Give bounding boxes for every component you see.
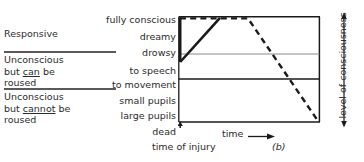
category-line-3: roused xyxy=(4,114,70,126)
series-recovery-solid xyxy=(180,18,220,62)
category-line-1: Unconscious xyxy=(4,91,70,103)
time-of-injury-caption: time of injury xyxy=(152,141,216,152)
category-line-1: Unconscious xyxy=(4,54,64,66)
x-axis-title: time xyxy=(222,128,243,139)
series-deterioration-dashed xyxy=(180,18,318,121)
y-label-fully-conscious: fully conscious xyxy=(106,15,176,25)
category-line-2-suffix: be xyxy=(40,66,55,77)
y-axis-level-labels: fully conscious dreamy drowsy to speech … xyxy=(86,10,176,128)
category-line-2-prefix: but xyxy=(4,66,23,77)
y-label-to-movement: to movement xyxy=(112,80,176,90)
category-line-2-suffix: be xyxy=(55,103,70,114)
category-line-2: but can be xyxy=(4,66,64,78)
category-emphasis-can: can xyxy=(23,66,40,77)
panel-label: (b) xyxy=(272,141,285,152)
plot-area xyxy=(178,16,320,122)
category-unconscious-cannot-be-roused: Unconscious but cannot be roused xyxy=(4,91,70,126)
category-emphasis-cannot: cannot xyxy=(23,103,56,114)
consciousness-chart xyxy=(178,16,324,128)
y-label-to-speech: to speech xyxy=(130,66,176,76)
category-line-2-prefix: but xyxy=(4,103,23,114)
y-label-dreamy: dreamy xyxy=(140,32,176,42)
y-label-dead: dead xyxy=(152,127,176,137)
category-line-3: roused xyxy=(4,77,64,89)
y-axis-title: level of consciousness xyxy=(337,8,348,124)
category-line-2: but cannot be xyxy=(4,103,70,115)
y-label-small-pupils: small pupils xyxy=(119,96,176,106)
time-direction-arrow-icon xyxy=(248,133,276,140)
y-label-drowsy: drowsy xyxy=(142,48,176,58)
category-responsive: Responsive xyxy=(4,28,58,40)
category-responsive-label: Responsive xyxy=(4,28,58,40)
category-unconscious-can-be-roused: Unconscious but can be roused xyxy=(4,54,64,89)
y-axis-title-group: level of consciousness xyxy=(326,12,342,128)
y-label-large-pupils: large pupils xyxy=(121,111,176,121)
